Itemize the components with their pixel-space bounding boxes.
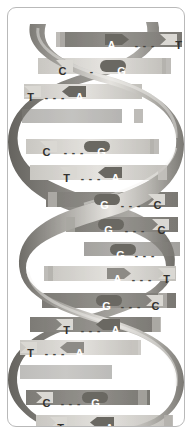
dna-helix-illustration: [8, 8, 184, 426]
dna-figure-frame: A- - -TC-GT- - -AC- - -GT- - -AG- - -CG-…: [7, 7, 185, 427]
